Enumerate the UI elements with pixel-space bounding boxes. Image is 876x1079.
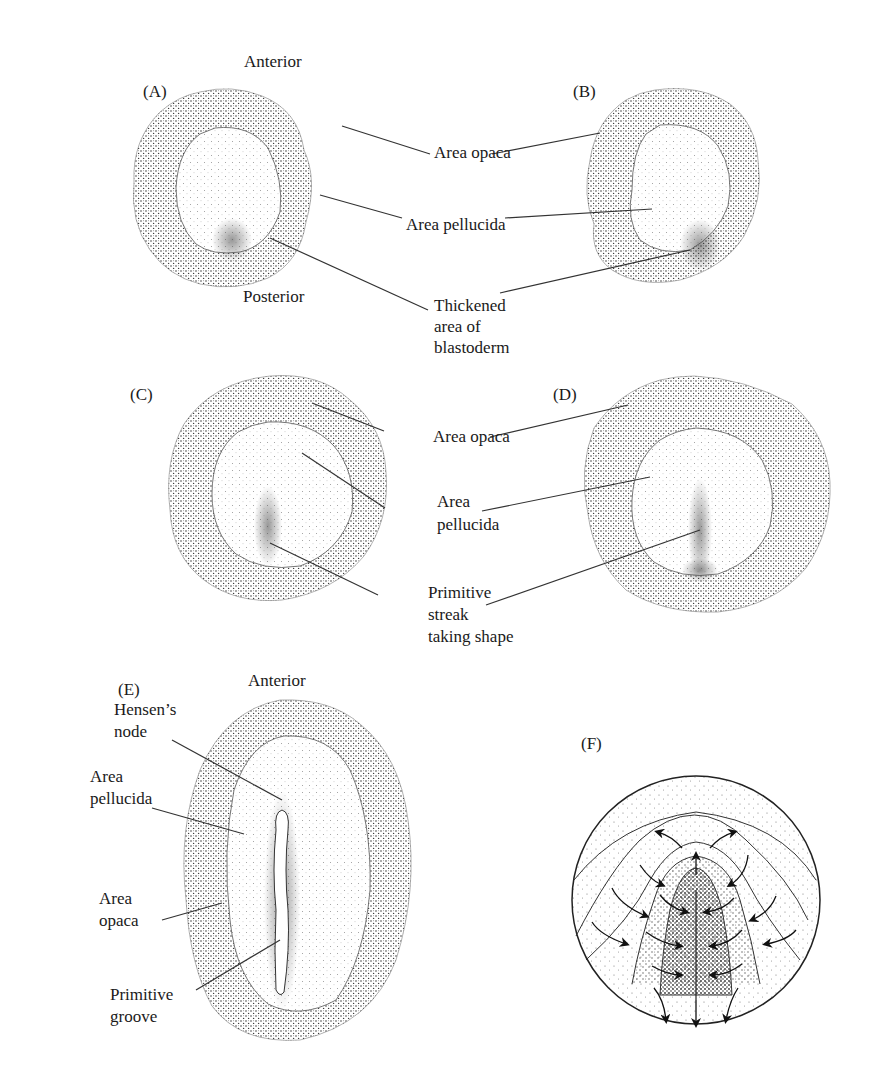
label-area-opaca-e-line2: opaca [99,911,139,931]
orientation-anterior-e: Anterior [248,671,306,691]
primitive-groove-shape [274,810,289,995]
panel-f-fate-map [572,776,820,1024]
label-primitive-streak-line2: streak [428,605,469,625]
label-area-pellucida-e-line2: pellucida [90,789,152,809]
panel-label-b: (B) [573,82,596,102]
panel-label-d: (D) [553,385,577,405]
panel-a-embryo [133,89,311,287]
panel-e-embryo [184,700,411,1041]
label-thickened-line1: Thickened [434,296,506,316]
label-area-opaca-cd: Area opaca [433,427,510,447]
label-primitive-groove-line1: Primitive [110,985,173,1005]
label-area-pellucida-e-line1: Area [90,767,123,787]
label-area-opaca-e-line1: Area [99,889,132,909]
label-hensens-node-line2: node [114,722,147,742]
panel-label-c: (C) [130,385,153,405]
panel-label-f: (F) [581,734,602,754]
label-primitive-groove-line2: groove [110,1007,157,1027]
label-primitive-streak-line1: Primitive [428,583,491,603]
orientation-anterior-a: Anterior [244,52,302,72]
panel-label-a: (A) [143,82,167,102]
label-area-pellucida-ab: Area pellucida [406,215,506,235]
label-hensens-node-line1: Hensen’s [114,700,176,720]
label-primitive-streak-line3: taking shape [428,627,513,647]
orientation-posterior-a: Posterior [243,287,304,307]
label-area-pellucida-cd-line1: Area [437,492,470,512]
label-area-opaca-ab: Area opaca [434,143,511,163]
label-thickened-line2: area of [434,317,481,337]
label-thickened-line3: blastoderm [434,338,510,358]
label-area-pellucida-cd-line2: pellucida [437,515,499,535]
panel-d-embryo [584,376,830,612]
panel-label-e: (E) [118,680,140,700]
